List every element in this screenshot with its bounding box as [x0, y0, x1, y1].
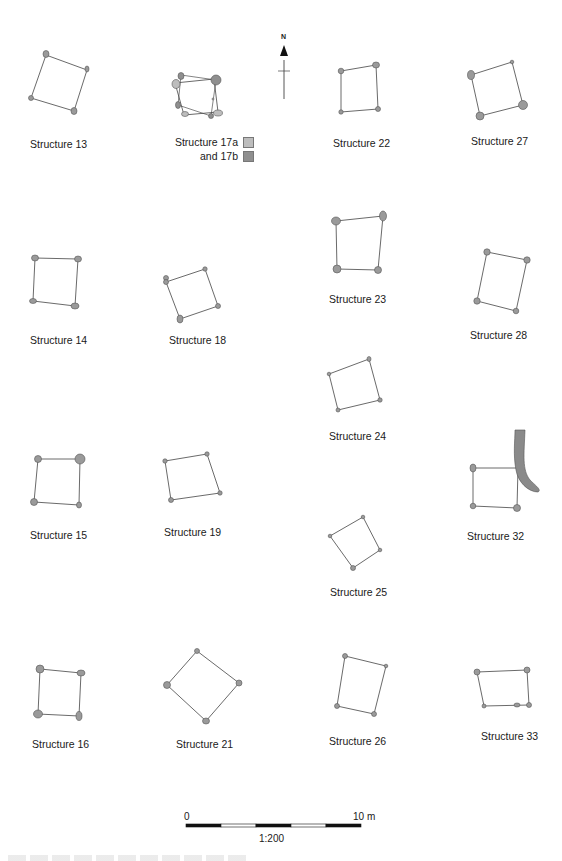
- structure-28-plan: [477, 252, 527, 311]
- structure-18-plan: [166, 269, 218, 319]
- structure-25-label: Structure 25: [330, 586, 387, 598]
- structure-15-plan: [34, 459, 80, 505]
- structure-24-plan: [329, 359, 380, 410]
- structure-33-label: Structure 33: [481, 730, 538, 742]
- structure-16-label: Structure 16: [32, 738, 89, 750]
- structure-28-label: Structure 28: [470, 329, 527, 341]
- structure-23-label: Structure 23: [329, 293, 386, 305]
- structure-21-label: Structure 21: [176, 738, 233, 750]
- structure-13-label: Structure 13: [30, 138, 87, 150]
- structure-27-label: Structure 27: [471, 135, 528, 147]
- structure-17a-swatch: [243, 137, 254, 148]
- structure-19-plan: [165, 454, 220, 500]
- structure-33-plan: [477, 670, 529, 706]
- structure-22-label: Structure 22: [333, 137, 390, 149]
- structure-26-label: Structure 26: [329, 735, 386, 747]
- scale-bar: [186, 824, 361, 827]
- structure-15-label: Structure 15: [30, 529, 87, 541]
- structure-14-plan: [33, 258, 78, 306]
- scale-start-label: 0: [184, 811, 190, 822]
- scale-ratio-label: 1:200: [259, 833, 284, 844]
- structure-24-label: Structure 24: [329, 430, 386, 442]
- structure-17a-label: Structure 17a: [175, 136, 238, 148]
- structure-18-label: Structure 18: [169, 334, 226, 346]
- structure-27-plan: [471, 62, 523, 116]
- structure-21-plan: [167, 651, 239, 721]
- structure-14-label: Structure 14: [30, 334, 87, 346]
- structure-17b-label: and 17b: [200, 150, 238, 162]
- ditch-feature: [514, 430, 539, 492]
- north-arrow-icon: [278, 45, 290, 99]
- structure-17b-swatch: [243, 151, 254, 162]
- structure-22-plan: [341, 65, 378, 112]
- structure-32-plan: [473, 468, 518, 508]
- structures-plan: [0, 0, 562, 861]
- structure-25-plan: [330, 517, 380, 568]
- structure-17a-legend: Structure 17a: [160, 136, 254, 148]
- scale-end-label: 10 m: [353, 811, 375, 822]
- north-label: N: [281, 33, 286, 40]
- structure-32-label: Structure 32: [467, 530, 524, 542]
- structure-16-plan: [38, 669, 81, 716]
- structure-13-plan: [31, 55, 87, 111]
- structure-26-plan: [337, 656, 386, 714]
- structure-23-plan: [336, 216, 383, 270]
- cropped-caption: [8, 855, 248, 861]
- structure-17b-legend: and 17b: [160, 150, 254, 162]
- structure-19-label: Structure 19: [164, 526, 221, 538]
